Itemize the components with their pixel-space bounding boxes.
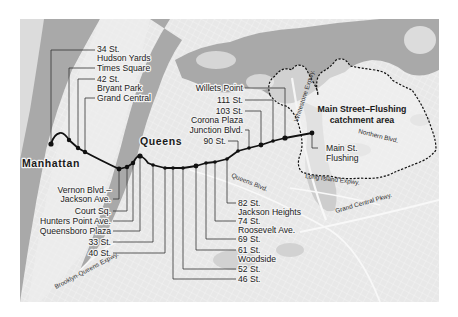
station-label: 111 St. [217,95,243,105]
station-dot-61st[interactable] [194,164,199,169]
station-dot-40st[interactable] [163,166,167,170]
station-label: Jackson Ave. [61,194,111,204]
station-label: Junction Blvd. [189,125,243,135]
island [404,26,436,54]
station-label: Willets Point [196,83,244,93]
station-label: 40 St. [89,248,111,258]
station-label: Bryant Park [97,83,143,93]
station-label: 90 St. [204,136,226,146]
station-label: Hunters Point Ave. [40,216,111,226]
catchment-title-line1: Main Street–Flushing [318,104,407,114]
park [276,243,304,257]
station-label: Woodside [238,254,276,264]
station-label: Queensboro Plaza [40,226,111,236]
station-label: 33 St. [89,237,111,247]
station-label: Times Square [97,63,150,73]
station-dot-court-sq[interactable] [131,161,135,165]
station-dot-main-st[interactable] [310,131,315,136]
station-dot-52st[interactable] [181,166,185,170]
station-dot-queensboro[interactable] [137,153,142,158]
terminal-label-line1: Main St. [326,143,358,153]
island [196,51,236,69]
station-dot-103st[interactable] [259,143,264,148]
terminal-label-line2: Flushing [326,153,359,163]
station-dot-willets-point[interactable] [282,135,287,140]
station-label: Hudson Yards [97,53,151,63]
station-label: 69 St. [238,234,260,244]
station-dot-111st[interactable] [271,139,275,143]
station-dot-82st[interactable] [225,157,229,161]
station-label: Grand Central [97,93,151,103]
station-dot-69st[interactable] [204,161,208,165]
station-dot-46st[interactable] [171,166,175,170]
station-dot-34st[interactable] [48,141,53,146]
station-dot-90st[interactable] [236,149,240,153]
station-label: 46 St. [238,274,260,284]
station-label: 52 St. [238,264,260,274]
station-label: Court Sq. [75,206,111,216]
label-manhattan: Manhattan [22,157,80,169]
station-dot-33st[interactable] [151,163,155,167]
station-dot-times-square[interactable] [67,138,71,142]
station-dot-42st[interactable] [76,146,80,150]
station-dot-74st[interactable] [213,160,217,164]
label-queens: Queens [140,135,182,147]
catchment-title-line2: catchment area [330,115,395,125]
station-dot-grand-central[interactable] [83,150,87,154]
station-dot-vernon[interactable] [117,167,122,172]
subway-map: Manhattan Queens Main Street–Flushing ca… [0,0,458,317]
station-dot-junction[interactable] [247,146,251,150]
station-label: Corona Plaza [191,115,243,125]
station-dot-hunters-point[interactable] [125,165,129,169]
